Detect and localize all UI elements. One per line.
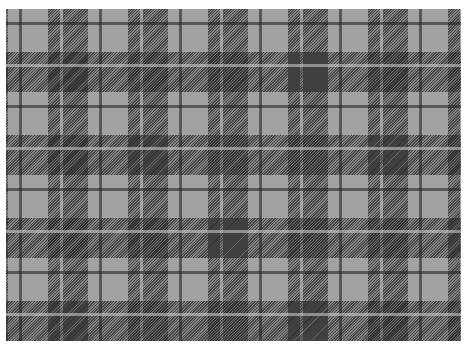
horizontal-dark-stripe [6, 218, 461, 258]
tartan-plaid-pattern [6, 9, 461, 341]
horizontal-dark-stripe [6, 52, 461, 92]
horizontal-light-line [6, 230, 461, 233]
horizontal-light-line [6, 64, 461, 67]
horizontal-dark-line [6, 22, 461, 25]
horizontal-dark-line [6, 271, 461, 274]
horizontal-dark-stripe [6, 135, 461, 175]
horizontal-light-line [6, 147, 461, 150]
horizontal-light-line [6, 313, 461, 316]
horizontal-dark-line [6, 105, 461, 108]
horizontal-dark-stripe [6, 301, 461, 341]
horizontal-dark-line [6, 188, 461, 191]
